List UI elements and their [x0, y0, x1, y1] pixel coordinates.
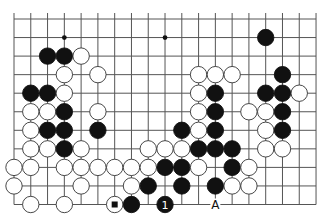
black-stone: [207, 104, 223, 120]
white-stone: [174, 141, 190, 157]
black-stone-icon: [207, 178, 223, 194]
black-stone-icon: [190, 141, 206, 157]
black-stone-icon: [39, 122, 55, 138]
white-stone-icon: [56, 159, 72, 175]
black-stone-icon: [56, 104, 72, 120]
white-stone: [190, 159, 206, 175]
white-stone-icon: [23, 104, 39, 120]
black-stone: [207, 178, 223, 194]
white-stone-icon: [73, 48, 89, 64]
white-stone: [73, 178, 89, 194]
white-stone: [23, 141, 39, 157]
black-stone-icon: [39, 48, 55, 64]
black-stone: [207, 122, 223, 138]
black-stone-icon: [258, 85, 274, 101]
white-stone-icon: [190, 159, 206, 175]
black-stone: [274, 122, 290, 138]
black-stone: [39, 85, 55, 101]
black-stone-icon: [56, 141, 72, 157]
white-stone: [90, 159, 106, 175]
go-board-diagram: 1 A: [0, 0, 329, 223]
white-stone-icon: [258, 122, 274, 138]
black-stone: [258, 85, 274, 101]
black-stone-icon: [224, 141, 240, 157]
black-stone: [123, 196, 139, 212]
white-stone: [241, 178, 257, 194]
white-stone: [106, 196, 122, 212]
square-marker-icon: [112, 202, 118, 208]
white-stone-icon: [190, 66, 206, 82]
black-stone: [39, 122, 55, 138]
black-stone: [90, 122, 106, 138]
white-stone: [123, 178, 139, 194]
black-stone-icon: [56, 122, 72, 138]
point-labels-layer: A: [210, 198, 220, 212]
white-stone: [190, 122, 206, 138]
white-stone-icon: [258, 141, 274, 157]
white-stone: [274, 141, 290, 157]
white-stone-icon: [90, 66, 106, 82]
white-stone: [190, 66, 206, 82]
white-stone-icon: [241, 104, 257, 120]
white-stone-icon: [39, 104, 55, 120]
black-stone-icon: [123, 196, 139, 212]
white-stone: [106, 159, 122, 175]
white-stone-icon: [23, 196, 39, 212]
white-stone-icon: [274, 141, 290, 157]
white-stone-icon: [241, 178, 257, 194]
white-stone-icon: [241, 159, 257, 175]
white-stone-icon: [6, 178, 22, 194]
black-stone-icon: [207, 104, 223, 120]
black-stone: 1: [157, 196, 173, 212]
white-stone: [258, 122, 274, 138]
black-stone: [207, 141, 223, 157]
white-stone-icon: [56, 66, 72, 82]
white-stone: [73, 48, 89, 64]
white-stone-icon: [23, 159, 39, 175]
black-stone: [56, 48, 72, 64]
white-stone: [6, 159, 22, 175]
white-stone: [56, 66, 72, 82]
black-stone-icon: [174, 122, 190, 138]
black-stone: [56, 104, 72, 120]
move-number-label: 1: [162, 199, 169, 212]
white-stone-icon: [224, 66, 240, 82]
star-point-icon: [62, 35, 67, 40]
black-stone-icon: [174, 178, 190, 194]
white-stone: [241, 159, 257, 175]
black-stone-icon: [23, 85, 39, 101]
white-stone-icon: [23, 122, 39, 138]
black-stone: [224, 159, 240, 175]
white-stone-icon: [190, 104, 206, 120]
black-stone: [56, 122, 72, 138]
white-stone: [157, 141, 173, 157]
black-stone-icon: [174, 159, 190, 175]
black-stone: [274, 104, 290, 120]
white-stone: [23, 196, 39, 212]
star-point-icon: [163, 35, 168, 40]
white-stone-icon: [258, 104, 274, 120]
white-stone: [23, 104, 39, 120]
black-stone-icon: [140, 178, 156, 194]
black-stone-icon: [258, 29, 274, 45]
black-stone: [224, 141, 240, 157]
white-stone: [6, 178, 22, 194]
black-stone: [258, 29, 274, 45]
black-stone: [274, 66, 290, 82]
white-stone: [190, 85, 206, 101]
white-stone-icon: [224, 178, 240, 194]
black-stone-icon: [274, 85, 290, 101]
white-stone-icon: [106, 159, 122, 175]
white-stone-icon: [190, 122, 206, 138]
white-stone-icon: [6, 159, 22, 175]
black-stone-icon: [207, 122, 223, 138]
white-stone-icon: [123, 178, 139, 194]
white-stone: [23, 159, 39, 175]
white-stone-icon: [157, 141, 173, 157]
black-stone-icon: [274, 122, 290, 138]
black-stone: [140, 178, 156, 194]
white-stone: [258, 141, 274, 157]
white-stone-icon: [39, 141, 55, 157]
white-stone-icon: [73, 178, 89, 194]
white-stone: [90, 66, 106, 82]
